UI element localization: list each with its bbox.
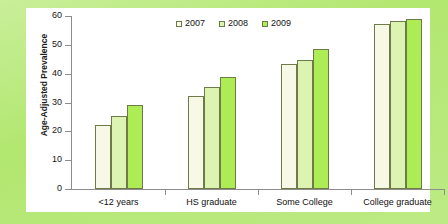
legend-item-2008[interactable]: 2008 xyxy=(219,19,248,28)
bar-2009-HS graduate xyxy=(220,77,236,189)
y-tick-label: 30 xyxy=(40,98,62,107)
plot-panel: Age-Adjusted Prevalence 0102030405060 <1… xyxy=(26,8,430,212)
legend-item-2009[interactable]: 2009 xyxy=(262,19,291,28)
bar-2008-College graduate xyxy=(390,21,406,189)
bar-2008-HS graduate xyxy=(204,87,220,189)
y-tick-mark xyxy=(65,16,72,17)
y-tick-label: 60 xyxy=(40,11,62,20)
y-tick-label: 40 xyxy=(40,69,62,78)
y-tick-mark xyxy=(65,45,72,46)
y-tick-mark xyxy=(65,74,72,75)
legend-label-2007: 2007 xyxy=(185,19,205,28)
x-category-label: HS graduate xyxy=(165,198,258,207)
legend-swatch-2008 xyxy=(219,21,225,27)
legend-swatch-2007 xyxy=(176,21,182,27)
y-tick-mark xyxy=(65,160,72,161)
legend-item-2007[interactable]: 2007 xyxy=(176,19,205,28)
y-tick-label: 20 xyxy=(40,126,62,135)
bar-2008-Some College xyxy=(297,60,313,189)
bar-2009-<12 years xyxy=(127,105,143,189)
legend-label-2009: 2009 xyxy=(271,19,291,28)
chart-figure: Age-Adjusted Prevalence 0102030405060 <1… xyxy=(0,0,448,224)
bar-2007-HS graduate xyxy=(188,96,204,189)
y-tick-label: 50 xyxy=(40,40,62,49)
x-tick-mark xyxy=(444,189,445,195)
bar-2009-College graduate xyxy=(406,19,422,189)
y-axis-title: Age-Adjusted Prevalence xyxy=(39,5,49,165)
legend-swatch-2009 xyxy=(262,21,268,27)
x-tick-mark xyxy=(165,189,166,195)
x-category-label: <12 years xyxy=(72,198,165,207)
chart-legend: 200720082009 xyxy=(176,19,291,28)
x-category-label: Some College xyxy=(258,198,351,207)
bar-2007-<12 years xyxy=(95,125,111,189)
y-tick-label: 10 xyxy=(40,155,62,164)
y-tick-mark xyxy=(65,131,72,132)
x-tick-mark xyxy=(351,189,352,195)
bar-2009-Some College xyxy=(313,49,329,189)
x-tick-mark xyxy=(258,189,259,195)
bar-2007-College graduate xyxy=(374,24,390,190)
bar-2007-Some College xyxy=(281,64,297,189)
y-tick-mark xyxy=(65,103,72,104)
legend-label-2008: 2008 xyxy=(228,19,248,28)
bars-container xyxy=(72,16,444,189)
bar-2008-<12 years xyxy=(111,116,127,189)
x-category-label: College graduate xyxy=(351,198,444,207)
y-tick-label: 0 xyxy=(40,184,62,193)
y-tick-mark xyxy=(65,189,72,190)
